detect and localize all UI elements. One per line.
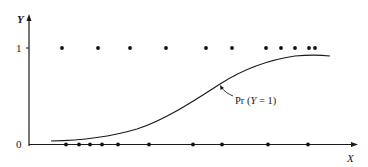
data-point — [96, 46, 100, 50]
data-point — [164, 46, 168, 50]
data-point — [116, 143, 120, 147]
logistic-chart: Y 1 0 X Pr (Y = 1) — [0, 0, 368, 167]
data-point — [264, 46, 268, 50]
data-point — [313, 46, 317, 50]
data-point — [279, 46, 283, 50]
data-point — [77, 143, 81, 147]
points-y1 — [60, 46, 317, 50]
y-tick-label-one: 1 — [16, 42, 22, 54]
data-point — [100, 143, 104, 147]
x-axis-label: X — [346, 152, 355, 164]
probability-curve — [51, 55, 330, 141]
y-axis-label: Y — [17, 13, 25, 25]
data-point — [307, 46, 311, 50]
data-point — [230, 46, 234, 50]
data-point — [60, 46, 64, 50]
y-tick-label-zero: 0 — [16, 138, 22, 150]
data-point — [220, 143, 224, 147]
data-point — [266, 143, 270, 147]
data-point — [191, 143, 195, 147]
x-axis-arrow-icon — [351, 142, 358, 147]
curve-annotation-suffix: = 1) — [256, 95, 276, 107]
data-point — [306, 143, 310, 147]
data-point — [293, 46, 297, 50]
data-point — [147, 143, 151, 147]
data-point — [204, 46, 208, 50]
y-axis-arrow-icon — [27, 14, 32, 21]
data-point — [88, 143, 92, 147]
data-point — [128, 46, 132, 50]
curve-annotation-prefix: Pr ( — [235, 95, 251, 107]
data-point — [64, 143, 68, 147]
curve-annotation: Pr (Y = 1) — [235, 95, 277, 107]
